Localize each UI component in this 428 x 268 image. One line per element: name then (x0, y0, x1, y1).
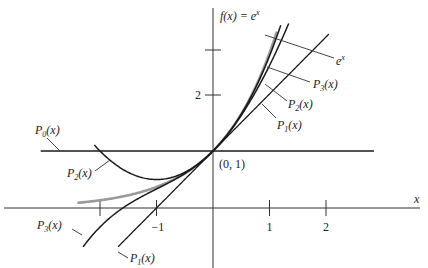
leader-line (47, 138, 60, 151)
x-tick-label: −1 (152, 220, 165, 234)
leader-line (72, 229, 82, 235)
label-p1-right: P1(x) (276, 118, 302, 134)
leader-line (267, 67, 310, 82)
leader-line (262, 104, 276, 118)
label-p2-left: P2(x) (66, 166, 92, 182)
label-p0: P0(x) (34, 123, 60, 139)
curve-p3 (83, 25, 281, 247)
label-p2-right: P2(x) (287, 97, 313, 113)
x-tick-label: 2 (323, 220, 329, 234)
point-label: (0, 1) (219, 157, 245, 171)
leader-line (95, 160, 110, 171)
label-ex: ex (336, 53, 345, 68)
x-tick-label: 1 (267, 220, 273, 234)
curve-p2 (94, 23, 288, 179)
y-axis-label: f(x) = ex (220, 8, 260, 23)
curves (41, 23, 374, 246)
label-p1-bottom: P1(x) (129, 251, 155, 267)
x-axis-label: x (413, 192, 420, 206)
ticks: −1122 (100, 50, 329, 234)
leader-line (118, 252, 128, 258)
label-p3-left: P3(x) (36, 218, 62, 234)
label-p3-right: P3(x) (312, 77, 338, 93)
axes (4, 8, 420, 268)
y-tick-label: 2 (195, 88, 201, 102)
taylor-polynomial-chart: −1122 exP3(x)P2(x)P1(x)P0(x)P2(x)P3(x)P1… (0, 0, 428, 268)
